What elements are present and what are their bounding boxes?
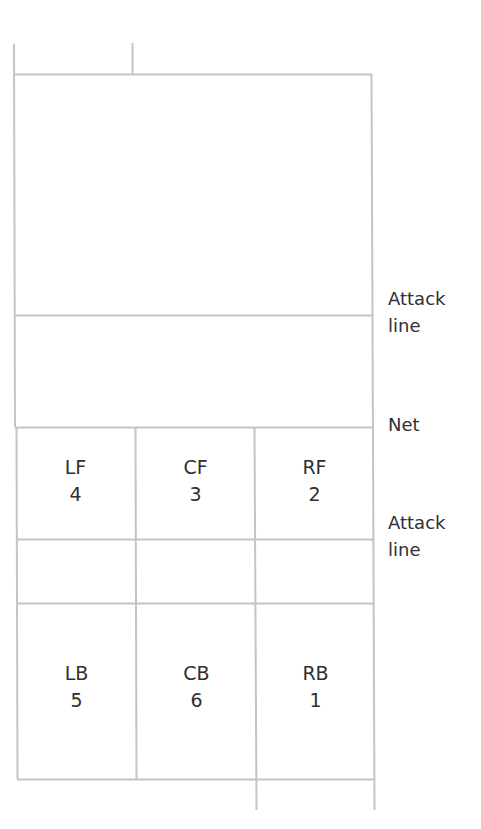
position-number: 2 xyxy=(255,481,374,508)
label-line-1: Attack xyxy=(388,509,445,536)
position-code: CB xyxy=(137,660,256,687)
position-cb: CB 6 xyxy=(137,660,256,714)
label-line-2: line xyxy=(388,536,445,563)
position-rb: RB 1 xyxy=(256,660,375,714)
position-code: LF xyxy=(16,454,135,481)
volleyball-court-diagram: Attack line Net Attack line LF 4 CF 3 RF… xyxy=(0,0,481,829)
position-lb: LB 5 xyxy=(17,660,136,714)
position-number: 1 xyxy=(256,687,375,714)
position-number: 6 xyxy=(137,687,256,714)
position-lf: LF 4 xyxy=(16,454,135,508)
label-line-1: Attack xyxy=(388,285,445,312)
label-line-2: line xyxy=(388,312,445,339)
position-number: 4 xyxy=(16,481,135,508)
net-label: Net xyxy=(388,411,420,438)
position-code: RB xyxy=(256,660,375,687)
position-code: RF xyxy=(255,454,374,481)
position-cf: CF 3 xyxy=(136,454,255,508)
left-boundary-upper xyxy=(14,44,15,427)
lower-attack-line-label: Attack line xyxy=(388,509,445,563)
position-code: LB xyxy=(17,660,136,687)
position-code: CF xyxy=(136,454,255,481)
position-number: 3 xyxy=(136,481,255,508)
position-rf: RF 2 xyxy=(255,454,374,508)
position-number: 5 xyxy=(17,687,136,714)
upper-attack-line-label: Attack line xyxy=(388,285,445,339)
